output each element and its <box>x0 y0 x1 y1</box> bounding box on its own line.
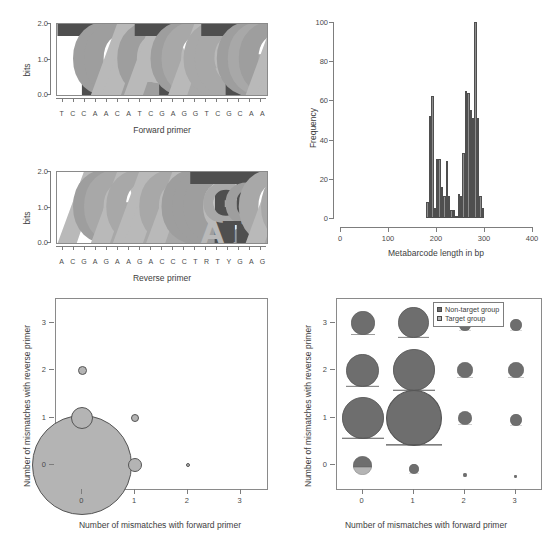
logo-seq-letter: A <box>246 258 257 265</box>
logo-letter-C: C <box>179 172 190 243</box>
logo-letter-C: C <box>112 24 123 95</box>
figure-root: bits 0.01.02.0 TCCAACATCGAGGTCGCAA TCCAA… <box>0 0 551 545</box>
logo-x-tick <box>62 246 63 250</box>
logo-letter-G: G <box>134 172 145 243</box>
logo-x-tick <box>139 246 140 250</box>
logo-x-tick <box>260 246 261 250</box>
histogram-x-tick <box>484 227 485 232</box>
histogram-xlabel: Metabarcode length in bp <box>340 248 532 258</box>
logo-stack-1: T <box>57 24 68 95</box>
logo-stack-2: C <box>68 172 79 243</box>
bubble-marker <box>510 317 522 329</box>
logo-seq-letter: R <box>201 258 212 265</box>
logo-x-tick <box>95 246 96 250</box>
logo-letter-A: A <box>123 172 134 243</box>
logo-seq-letter: C <box>212 110 223 117</box>
bubble-x-tick <box>81 489 82 494</box>
bubble-x-tick-label: 1 <box>404 496 422 505</box>
logo-letter-A: A <box>145 172 156 243</box>
logo-x-tick <box>172 246 173 250</box>
logo-seq-letter: A <box>145 258 156 265</box>
bubble-x-tick <box>187 489 188 494</box>
logo-stack-18: A <box>245 172 256 243</box>
bubble-pie <box>457 362 473 378</box>
bubble-y-tick-label: 2 <box>310 365 327 374</box>
histogram-y-tick-label: 0 <box>306 214 328 223</box>
histogram-x-tick <box>388 227 389 232</box>
bubble-y-tick-label: 1 <box>29 413 46 422</box>
logo-letter-A: A <box>90 24 101 95</box>
logo-seq-letter: G <box>257 258 268 265</box>
logo-seq-letter: G <box>235 258 246 265</box>
logo-letter-G: G <box>256 172 267 243</box>
logo-seq-letter: C <box>168 258 179 265</box>
logo-stack-4: A <box>90 172 101 243</box>
bubble-pie <box>342 397 384 439</box>
logo-stack-14: GA <box>201 172 212 243</box>
logo-seq-letter: C <box>67 110 78 117</box>
bubble-marker <box>514 464 517 467</box>
bubble-x-tick-label: 3 <box>231 496 249 505</box>
logo-letter-A: A <box>168 24 179 95</box>
logo-stack-11: C <box>168 172 179 243</box>
bubble1-xlabel: Number of mismatches with forward primer <box>35 520 285 530</box>
panel-mismatch-bubble-groups: Number of mismatches with reverse primer… <box>281 288 551 545</box>
reverse-logo-caption: Reverse primer <box>56 273 268 283</box>
bubble-marker <box>510 412 522 424</box>
logo-stack-4: A <box>90 24 101 95</box>
bubble-y-tick <box>330 464 335 465</box>
histogram-x-tick-label: 300 <box>470 234 498 243</box>
logo-stack-19: A <box>256 24 267 95</box>
histogram-plot-area <box>340 22 532 218</box>
histogram-y-tick-label: 20 <box>306 175 328 184</box>
bubble-x-tick <box>515 489 516 494</box>
logo-stack-8: G <box>134 172 145 243</box>
logo-y-tick-label: 0.0 <box>26 238 48 247</box>
bubble-y-tick-label: 0 <box>29 460 46 469</box>
logo-y-tick-label: 1.0 <box>26 203 48 212</box>
bubble-y-tick-label: 0 <box>310 460 327 469</box>
logo-letter-T: T <box>190 172 201 243</box>
histogram-y-tick <box>329 140 334 141</box>
logo-stack-9: C <box>145 24 156 95</box>
logo-seq-letter: A <box>90 258 101 265</box>
bubble-pie <box>353 456 372 475</box>
bubble2-legend: Non-target groupTarget group <box>433 302 504 327</box>
logo-y-tick-label: 2.0 <box>26 167 48 176</box>
logo-seq-letter: T <box>212 258 223 265</box>
logo-stack-7: A <box>123 24 134 95</box>
logo-x-tick <box>194 246 195 250</box>
logo-letter-T: T <box>223 223 234 243</box>
bubble-y-tick <box>49 369 54 370</box>
logo-stack-17: G <box>234 172 245 243</box>
logo-y-tick-label: 1.0 <box>26 55 48 64</box>
logo-stack-13: T <box>190 172 201 243</box>
bubble-x-tick <box>240 489 241 494</box>
logo-letter-A: A <box>245 24 256 95</box>
logo-x-tick <box>117 98 118 102</box>
logo-seq-letter: T <box>134 110 145 117</box>
logo-letter-T: T <box>57 24 68 95</box>
histogram-y-tick <box>329 22 334 23</box>
forward-logo-ylabel: bits <box>22 63 32 76</box>
logo-x-tick <box>205 98 206 102</box>
histogram-x-tick-label: 200 <box>422 234 450 243</box>
logo-letter-A: A <box>57 172 68 243</box>
logo-seq-letter: A <box>257 110 268 117</box>
logo-seq-letter: C <box>156 258 167 265</box>
bubble-pie <box>393 349 435 391</box>
panel-reverse-primer-logo: bits 0.01.02.0 ACGAGAAGACCCTGATCTGAG ACG… <box>0 148 285 288</box>
logo-seq-letter: C <box>67 258 78 265</box>
logo-x-tick <box>227 246 228 250</box>
logo-stack-12: G <box>179 24 190 95</box>
bubble-x-tick-label: 0 <box>72 496 90 505</box>
logo-x-tick <box>62 98 63 102</box>
histogram-y-tick <box>329 100 334 101</box>
legend-swatch-icon <box>437 307 442 312</box>
logo-x-tick <box>238 246 239 250</box>
panel-mismatch-bubble-target: Number of mismatches with reverse primer… <box>0 288 285 545</box>
logo-x-tick <box>183 98 184 102</box>
logo-x-tick <box>216 98 217 102</box>
logo-stack-9: A <box>145 172 156 243</box>
logo-stack-10: G <box>156 24 167 95</box>
